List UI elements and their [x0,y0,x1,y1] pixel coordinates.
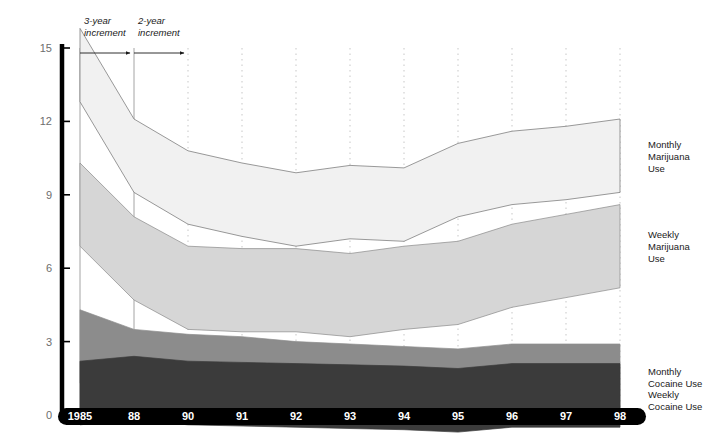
y-axis-label-9: 9 [46,189,52,201]
y-axis-label-3: 3 [46,336,52,348]
y-axis-label-6: 6 [46,262,52,274]
x-axis-label-92: 92 [290,410,302,422]
x-axis-label-94: 94 [398,410,411,422]
series-label-line: Weekly [648,229,679,240]
series-label-line: Marijuana [648,151,690,162]
series-label-1: WeeklyMarijuanaUse [648,229,690,264]
y-axis: 03691215 [40,42,70,421]
x-axis-label-90: 90 [182,410,194,422]
y-axis-label-0: 0 [46,409,52,421]
annotation-two-year: 2-yearincrement [134,15,184,53]
series-label-line: Weekly [648,389,679,400]
x-axis-label-1985: 1985 [68,410,92,422]
drug-use-trend-chart: 036912151985889091929394959697983-yearin… [0,0,720,444]
y-axis-label-15: 15 [40,42,52,54]
x-axis-label-97: 97 [560,410,572,422]
series-label-line: Cocaine Use [648,401,702,412]
x-axis-label-91: 91 [236,410,248,422]
chart-canvas: 036912151985889091929394959697983-yearin… [0,0,720,444]
series-label-line: Cocaine Use [648,378,702,389]
x-axis-label-88: 88 [128,410,140,422]
series-label-2: MonthlyCocaine Use [648,366,702,389]
x-axis: 198588909192939495969798 [58,408,646,425]
annotation-text-two-year: 2-year [137,15,166,26]
annotation-text-two-year: increment [138,27,180,38]
annotation-text-three-year: 3-year [84,15,112,26]
series-label-line: Monthly [648,366,682,377]
x-axis-label-93: 93 [344,410,356,422]
series-label-3: WeeklyCocaine Use [648,389,702,412]
series-label-0: MonthlyMarijuanaUse [648,139,690,174]
series-label-line: Marijuana [648,241,690,252]
series-labels-group: MonthlyMarijuanaUseWeeklyMarijuanaUseMon… [648,139,702,413]
annotations-group: 3-yearincrement2-yearincrement [80,15,184,53]
series-label-line: Use [648,163,665,174]
series-bands-group [80,28,620,432]
series-label-line: Use [648,253,665,264]
x-axis-label-95: 95 [452,410,464,422]
series-label-line: Monthly [648,139,682,150]
x-axis-label-96: 96 [506,410,518,422]
x-axis-label-98: 98 [614,410,626,422]
annotation-text-three-year: increment [84,27,126,38]
y-axis-label-12: 12 [40,115,52,127]
